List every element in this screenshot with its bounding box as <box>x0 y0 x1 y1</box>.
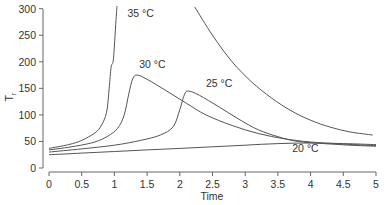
x-tick-label: 2.5 <box>205 178 220 190</box>
curve-35c <box>49 6 117 148</box>
x-tick-label: 4 <box>308 178 314 190</box>
y-tick-label: 0 <box>30 162 36 174</box>
series-label-30c: 30 °C <box>139 58 166 70</box>
y-tick-label: 200 <box>18 56 36 68</box>
x-axis-label: Time <box>201 190 224 202</box>
x-tick-label: 2 <box>177 178 183 190</box>
y-axis-label: Tr <box>3 92 17 101</box>
series-labels: 35 °C30 °C25 °C20 °C <box>127 7 319 154</box>
svg-text:Tr: Tr <box>3 92 17 101</box>
x-tick-label: 3.5 <box>271 178 286 190</box>
y-ticks: 050100150200250300 <box>18 3 43 174</box>
series-label-25c: 25 °C <box>206 77 233 89</box>
y-tick-label: 150 <box>18 82 36 94</box>
x-tick-label: 1 <box>111 178 117 190</box>
x-ticks: 00.511.522.533.544.55 <box>46 172 379 190</box>
y-tick-label: 300 <box>18 3 36 15</box>
y-tick-label: 100 <box>18 109 36 121</box>
x-tick-label: 3 <box>242 178 248 190</box>
chart: 050100150200250300 00.511.522.533.544.55… <box>0 0 384 205</box>
x-tick-label: 1.5 <box>140 178 155 190</box>
x-tick-label: 0 <box>46 178 52 190</box>
y-tick-label: 50 <box>24 135 36 147</box>
series-label-35c: 35 °C <box>127 7 154 19</box>
x-tick-label: 4.5 <box>336 178 351 190</box>
x-tick-label: 0.5 <box>74 178 89 190</box>
curve-20c <box>49 143 376 155</box>
x-tick-label: 5 <box>373 178 379 190</box>
y-tick-label: 250 <box>18 29 36 41</box>
curve-35c-tail <box>195 7 373 135</box>
series-label-20c: 20 °C <box>292 142 319 154</box>
